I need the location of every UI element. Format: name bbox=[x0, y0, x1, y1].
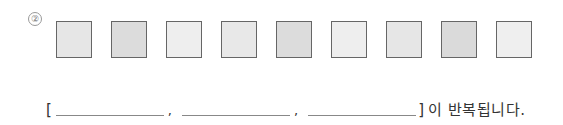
square-8 bbox=[441, 21, 477, 58]
answer-blank-2[interactable] bbox=[182, 101, 290, 116]
square-9 bbox=[496, 21, 532, 58]
sentence-suffix: 이 반복됩니다. bbox=[428, 102, 526, 118]
answer-blank-3[interactable] bbox=[308, 101, 416, 116]
square-6 bbox=[331, 21, 367, 58]
open-bracket: [ bbox=[46, 102, 52, 118]
problem-number: ② bbox=[28, 12, 42, 26]
separator-1: , bbox=[168, 104, 172, 118]
answer-line: [ , , ] 이 반복됩니다. bbox=[46, 98, 526, 118]
square-4 bbox=[221, 21, 257, 58]
answer-blank-1[interactable] bbox=[56, 101, 164, 116]
square-2 bbox=[111, 21, 147, 58]
square-1 bbox=[56, 21, 92, 58]
square-3 bbox=[166, 21, 202, 58]
close-bracket: ] bbox=[418, 102, 424, 118]
separator-2: , bbox=[294, 104, 298, 118]
square-5 bbox=[276, 21, 312, 58]
square-7 bbox=[386, 21, 422, 58]
